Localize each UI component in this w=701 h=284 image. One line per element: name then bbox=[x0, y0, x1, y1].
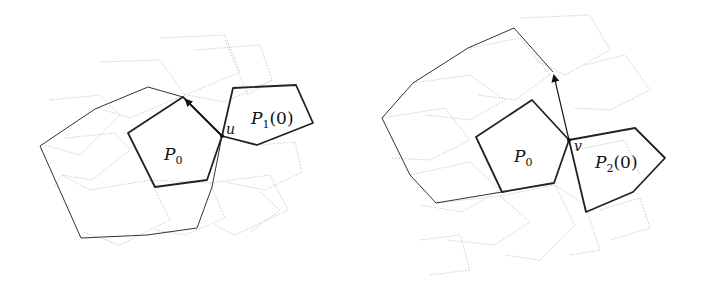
right-panel: P0 P2(0) v bbox=[382, 15, 665, 275]
vertex-u-dot bbox=[220, 134, 224, 138]
right-p0-label: P0 bbox=[513, 146, 532, 169]
left-p0-pentagon bbox=[128, 97, 222, 187]
vertex-v-label: v bbox=[574, 138, 582, 154]
right-background-tiling bbox=[382, 15, 650, 275]
left-arrow bbox=[186, 100, 222, 136]
right-arrow bbox=[554, 76, 569, 140]
left-p1-pentagon bbox=[222, 85, 313, 145]
right-p2-label: P2(0) bbox=[594, 152, 638, 175]
left-p1-label: P1(0) bbox=[250, 108, 294, 131]
left-p0-label: P0 bbox=[163, 144, 182, 167]
diagram-canvas: P0 P1(0) u P0 P2(0) v bbox=[0, 0, 701, 284]
left-background-tiling bbox=[45, 35, 302, 245]
vertex-v-dot bbox=[567, 138, 571, 142]
right-outer-polygon bbox=[382, 28, 553, 203]
left-panel: P0 P1(0) u bbox=[40, 35, 313, 245]
vertex-u-label: u bbox=[226, 121, 235, 137]
